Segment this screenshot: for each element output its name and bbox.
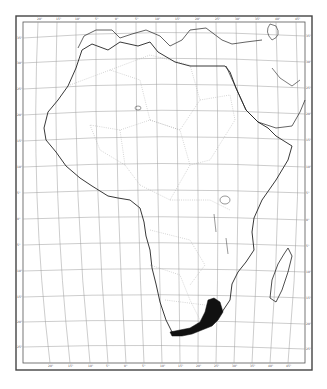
bottom-tick-labels: 20° 15° 10° 5° 0° 5° 10° 15° 20° 25° 30°…	[48, 364, 292, 368]
svg-text:5°: 5°	[17, 191, 21, 195]
svg-text:5°: 5°	[135, 17, 139, 21]
svg-text:5°: 5°	[306, 191, 310, 195]
right-tick-labels: 35° 30° 25° 20° 15° 10° 5° 0° 5° 10° 15°…	[306, 34, 312, 351]
svg-text:25°: 25°	[214, 364, 220, 368]
inner-frame	[23, 22, 305, 363]
svg-text:20°: 20°	[48, 364, 54, 368]
great-lakes	[135, 106, 230, 254]
europe-coastline	[78, 28, 262, 48]
svg-text:0°: 0°	[124, 364, 128, 368]
svg-text:20°: 20°	[37, 17, 43, 21]
svg-text:10°: 10°	[17, 269, 23, 273]
graticule-parallels	[23, 32, 305, 349]
svg-text:5°: 5°	[106, 364, 110, 368]
svg-text:15°: 15°	[306, 138, 312, 142]
svg-text:5°: 5°	[306, 244, 310, 248]
svg-text:15°: 15°	[178, 364, 184, 368]
svg-text:10°: 10°	[17, 165, 23, 169]
svg-text:30°: 30°	[17, 61, 23, 65]
svg-text:20°: 20°	[17, 113, 23, 117]
svg-text:45°: 45°	[295, 17, 301, 21]
svg-text:15°: 15°	[17, 295, 23, 299]
svg-text:5°: 5°	[142, 364, 146, 368]
svg-text:10°: 10°	[88, 364, 94, 368]
svg-text:10°: 10°	[155, 17, 161, 21]
left-tick-labels: 35° 30° 25° 20° 15° 10° 5° 0° 5° 10° 15°…	[17, 36, 23, 349]
svg-text:35°: 35°	[250, 364, 256, 368]
svg-text:25°: 25°	[306, 347, 312, 351]
svg-text:35°: 35°	[306, 34, 312, 38]
svg-text:20°: 20°	[306, 112, 312, 116]
svg-text:40°: 40°	[268, 364, 274, 368]
svg-text:25°: 25°	[17, 87, 23, 91]
svg-text:10°: 10°	[75, 17, 81, 21]
svg-text:10°: 10°	[160, 364, 166, 368]
svg-text:20°: 20°	[196, 364, 202, 368]
svg-text:30°: 30°	[306, 60, 312, 64]
svg-text:10°: 10°	[306, 270, 312, 274]
svg-text:5°: 5°	[95, 17, 99, 21]
madagascar	[270, 248, 292, 302]
svg-text:20°: 20°	[195, 17, 201, 21]
svg-text:15°: 15°	[175, 17, 181, 21]
svg-text:25°: 25°	[215, 17, 221, 21]
svg-text:45°: 45°	[286, 364, 292, 368]
svg-text:0°: 0°	[306, 218, 310, 222]
svg-text:15°: 15°	[306, 296, 312, 300]
persian-gulf	[272, 68, 300, 86]
svg-text:5°: 5°	[17, 243, 21, 247]
svg-text:30°: 30°	[235, 17, 241, 21]
svg-text:0°: 0°	[115, 17, 119, 21]
svg-text:15°: 15°	[56, 17, 62, 21]
svg-text:0°: 0°	[17, 217, 21, 221]
svg-text:40°: 40°	[275, 17, 281, 21]
svg-text:35°: 35°	[17, 36, 23, 40]
top-tick-labels: 20° 15° 10° 5° 0° 5° 10° 15° 20° 25° 30°…	[37, 17, 301, 21]
africa-distribution-map: 20° 15° 10° 5° 0° 5° 10° 15° 20° 25° 30°…	[0, 0, 327, 389]
svg-text:20°: 20°	[306, 322, 312, 326]
svg-text:10°: 10°	[306, 165, 312, 169]
svg-text:25°: 25°	[306, 86, 312, 90]
svg-text:35°: 35°	[255, 17, 261, 21]
svg-text:15°: 15°	[17, 139, 23, 143]
outer-frame	[16, 16, 312, 370]
svg-text:15°: 15°	[68, 364, 74, 368]
svg-text:25°: 25°	[17, 345, 23, 349]
svg-text:20°: 20°	[17, 320, 23, 324]
graticule-meridians	[36, 22, 299, 363]
svg-text:30°: 30°	[232, 364, 238, 368]
